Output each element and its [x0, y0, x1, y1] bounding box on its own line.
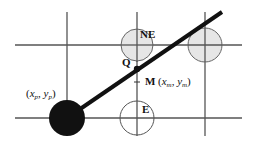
midpoint-diagram: NE Q M (xm, ym) E (xp, yp)	[0, 0, 253, 143]
label-ne: NE	[140, 28, 155, 40]
label-m-coords: (xm, ym)	[158, 75, 191, 89]
label-m: M	[145, 75, 156, 87]
midpoint-m-dot	[134, 66, 140, 72]
start-pixel-p	[49, 100, 85, 136]
label-p-coords: (xp, yp)	[26, 87, 56, 101]
label-e: E	[142, 103, 149, 115]
label-q: Q	[122, 56, 131, 68]
